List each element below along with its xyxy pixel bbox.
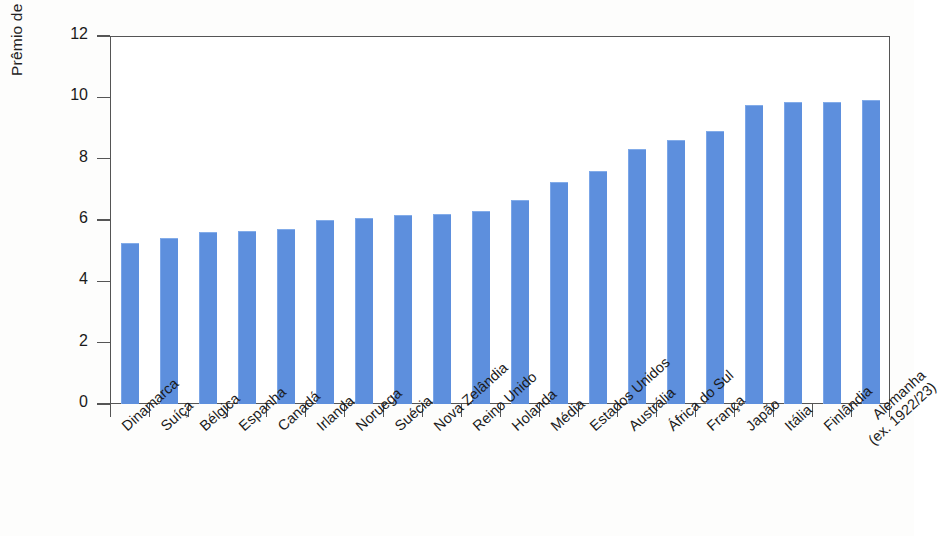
x-axis-label: Itália [781,402,814,434]
x-axis-label: Bélgica [196,390,242,434]
x-axis-label: Alemanha(ex. 1922/23) [854,367,939,448]
x-axis-label: Japão [742,396,782,434]
